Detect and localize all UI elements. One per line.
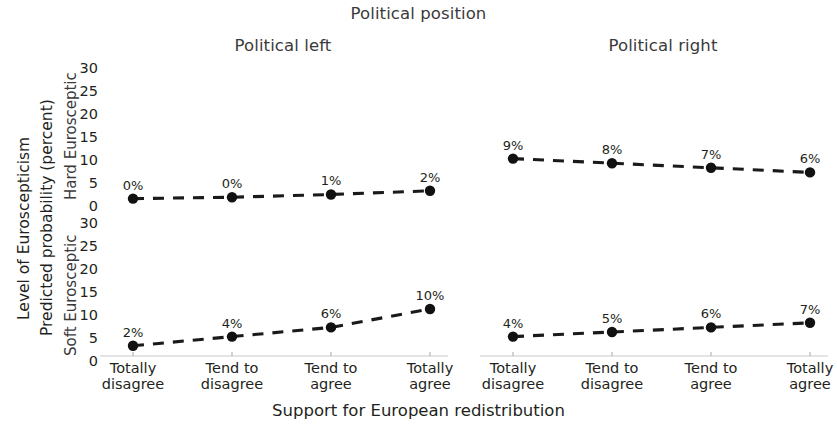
y-axis-ticks-hard: 302520151050: [72, 60, 98, 208]
x-category-label: Tend todisagree: [564, 361, 660, 392]
x-category-label-line1: Tend to: [663, 361, 759, 377]
x-category-label: Totallyagree: [382, 361, 478, 392]
x-category-label-line1: Totally: [762, 361, 837, 377]
x-category-label-line2: agree: [762, 377, 837, 393]
y-tick-label: 5: [89, 176, 98, 191]
data-point-marker: [326, 189, 336, 199]
y-tick-label: 25: [80, 239, 98, 254]
data-point-marker: [128, 341, 138, 351]
data-point-marker: [607, 327, 617, 337]
y-tick-label: 15: [80, 130, 98, 145]
data-point-label: 10%: [407, 289, 453, 302]
x-category-label-line1: Totally: [465, 361, 561, 377]
data-point-marker: [326, 322, 336, 332]
figure-super-title: Political position: [0, 4, 837, 23]
x-category-label-line2: disagree: [564, 377, 660, 393]
data-point-marker: [425, 304, 435, 314]
y-tick-label: 15: [80, 285, 98, 300]
x-category-label-line1: Tend to: [283, 361, 379, 377]
data-point-marker: [607, 158, 617, 168]
series-plot: [100, 217, 454, 371]
y-axis-title-line1: Level of Euroscepticism: [15, 137, 33, 320]
y-tick-label: 30: [80, 216, 98, 231]
data-point-marker: [805, 167, 815, 177]
x-category-label-line2: agree: [382, 377, 478, 393]
column-title-political-right: Political right: [530, 36, 796, 55]
data-point-label: 7%: [787, 303, 833, 316]
x-category-label-line2: disagree: [465, 377, 561, 393]
data-point-marker: [508, 331, 518, 341]
series-dashed-line: [513, 159, 810, 173]
x-category-label-line1: Tend to: [564, 361, 660, 377]
data-point-label: 7%: [688, 148, 734, 161]
data-point-marker: [128, 193, 138, 203]
data-point-marker: [706, 163, 716, 173]
data-point-marker: [508, 153, 518, 163]
y-tick-label: 25: [80, 84, 98, 99]
y-tick-label: 10: [80, 153, 98, 168]
data-point-label: 6%: [787, 152, 833, 165]
data-point-marker: [227, 192, 237, 202]
series-dashed-line: [133, 309, 430, 346]
x-category-label: Totallyagree: [762, 361, 837, 392]
x-category-label: Tend todisagree: [184, 361, 280, 392]
data-point-label: 4%: [490, 317, 536, 330]
x-category-label-line2: agree: [283, 377, 379, 393]
x-category-label-line1: Totally: [85, 361, 181, 377]
panel-soft-political-right: [480, 217, 834, 371]
panel-hard-political-left: [100, 62, 454, 216]
data-point-label: 1%: [308, 174, 354, 187]
x-category-label: Tend toagree: [283, 361, 379, 392]
x-category-label-line2: agree: [663, 377, 759, 393]
data-point-marker: [425, 186, 435, 196]
data-point-label: 2%: [407, 171, 453, 184]
data-point-label: 0%: [209, 177, 255, 190]
y-axis-ticks-soft: 302520151050: [72, 215, 98, 363]
x-category-label-line1: Tend to: [184, 361, 280, 377]
data-point-label: 6%: [688, 307, 734, 320]
column-title-political-left: Political left: [150, 36, 416, 55]
series-plot: [100, 62, 454, 216]
y-tick-label: 0: [89, 199, 98, 214]
x-category-label: Totallydisagree: [85, 361, 181, 392]
panel-soft-political-left: [100, 217, 454, 371]
y-tick-label: 30: [80, 61, 98, 76]
x-category-label: Totallydisagree: [465, 361, 561, 392]
data-point-label: 8%: [589, 143, 635, 156]
data-point-marker: [706, 322, 716, 332]
y-tick-label: 5: [89, 331, 98, 346]
x-category-label: Tend toagree: [663, 361, 759, 392]
data-point-marker: [805, 318, 815, 328]
y-tick-label: 10: [80, 308, 98, 323]
figure-canvas: Political position Political left Politi…: [0, 0, 837, 426]
x-category-label-line1: Totally: [382, 361, 478, 377]
y-axis-title-line2: Predicted probability (percent): [38, 99, 56, 336]
series-dashed-line: [513, 323, 810, 337]
y-tick-label: 20: [80, 262, 98, 277]
x-axis-title: Support for European redistribution: [0, 401, 837, 420]
data-point-marker: [227, 331, 237, 341]
data-point-label: 9%: [490, 139, 536, 152]
series-dashed-line: [133, 191, 430, 199]
y-tick-label: 20: [80, 107, 98, 122]
x-category-label-line2: disagree: [85, 377, 181, 393]
data-point-label: 6%: [308, 307, 354, 320]
data-point-label: 0%: [110, 179, 156, 192]
x-category-label-line2: disagree: [184, 377, 280, 393]
series-plot: [480, 217, 834, 371]
data-point-label: 4%: [209, 317, 255, 330]
data-point-label: 5%: [589, 312, 635, 325]
data-point-label: 2%: [110, 326, 156, 339]
